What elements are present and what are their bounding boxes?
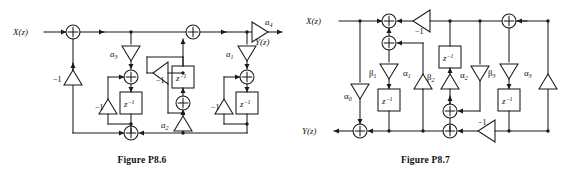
- gain-neg1-left: [64, 70, 82, 85]
- junction-dot: [448, 19, 451, 22]
- label-input-xz: X(z): [12, 27, 28, 37]
- junction-dot: [129, 122, 132, 125]
- label-gain-beta3: β3: [488, 68, 496, 79]
- junction-dot: [129, 30, 132, 33]
- figure-p86-diagram: X(z) Y(z) a4 a3 a1 a2 −1 −1 −1 −1 z−1 z−…: [0, 0, 284, 155]
- figure-p87-diagram: X(z) Y(z) α0 β1 α1 β2 α2 β3 α3 −1 −1 z−1…: [284, 0, 567, 155]
- gain-a3: [122, 46, 140, 61]
- junction-dot: [387, 129, 390, 132]
- gain-alpha0: [351, 84, 369, 99]
- label-neg1-left: −1: [53, 75, 62, 84]
- label-gain-alpha3: α3: [524, 68, 532, 79]
- junction-dot: [507, 129, 510, 132]
- gain-a1: [238, 46, 256, 61]
- label-gain-beta1: β1: [369, 68, 377, 79]
- figure-p87: X(z) Y(z) α0 β1 α1 β2 α2 β3 α3 −1 −1 z−1…: [284, 0, 567, 184]
- label-neg1-center: −1: [156, 76, 165, 85]
- label-gain-a3: a3: [110, 49, 118, 60]
- junction-dot: [358, 19, 361, 22]
- junction-dot: [245, 122, 248, 125]
- gain-beta3: [500, 64, 518, 79]
- figure-p86: X(z) Y(z) a4 a3 a1 a2 −1 −1 −1 −1 z−1 z−…: [0, 0, 284, 184]
- figure-p86-caption: Figure P8.6: [0, 155, 284, 165]
- label-gain-beta2: β2: [427, 72, 435, 83]
- gain-alpha3: [539, 74, 557, 89]
- junction-dot: [546, 19, 549, 22]
- label-neg1-top: −1: [415, 27, 424, 36]
- label-gain-a1: a1: [226, 49, 234, 60]
- junction-dot: [181, 111, 184, 114]
- gain-a2: [174, 116, 192, 131]
- label-neg1-mid-left: −1: [95, 103, 104, 112]
- junction-dot: [245, 30, 248, 33]
- figures-container: X(z) Y(z) a4 a3 a1 a2 −1 −1 −1 −1 z−1 z−…: [0, 0, 567, 184]
- gain-alpha2: [471, 66, 489, 81]
- label-output-yz: Y(z): [302, 126, 317, 136]
- junction-dot: [478, 19, 481, 22]
- gain-beta2: [441, 74, 459, 89]
- figure-p87-caption: Figure P8.7: [284, 155, 567, 165]
- label-output-yz: Y(z): [255, 37, 270, 47]
- label-gain-alpha0: α0: [344, 91, 352, 102]
- junction-dot: [546, 129, 549, 132]
- junction-dot: [181, 131, 184, 134]
- label-gain-a2: a2: [161, 120, 169, 131]
- gain-beta1: [380, 64, 398, 79]
- label-neg1-bottom: −1: [478, 118, 487, 127]
- label-neg1-right: −1: [211, 103, 220, 112]
- label-gain-alpha2: α2: [460, 70, 468, 81]
- label-input-xz: X(z): [305, 16, 321, 26]
- label-gain-alpha1: α1: [403, 68, 411, 79]
- label-gain-a4: a4: [265, 17, 273, 28]
- junction-dot: [421, 129, 424, 132]
